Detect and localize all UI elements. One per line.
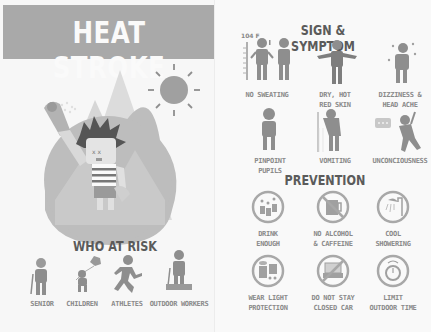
prevention-label-car-1: DO NOT STAY bbox=[303, 293, 363, 303]
prevention-label-shower-1: COOL bbox=[363, 229, 423, 239]
risk-label-senior: SENIOR bbox=[20, 299, 64, 309]
sun-icon bbox=[148, 64, 200, 116]
runner-icon bbox=[106, 255, 146, 295]
prevention-label-shower-2: SHOWERING bbox=[363, 239, 423, 249]
prevention-label-alcohol-2: & CAFFEINE bbox=[303, 239, 363, 249]
hot-skin-icon bbox=[317, 40, 357, 90]
senior-icon bbox=[27, 258, 57, 298]
symptom-label-unconsciousness: UNCONCIOUSNESS bbox=[365, 156, 431, 166]
prevention-label-drink-1: DRINK bbox=[238, 229, 298, 239]
symptom-label-hot-skin-1: DRY, HOT bbox=[305, 90, 365, 100]
child-balloon-icon bbox=[68, 254, 108, 294]
title-banner: HEAT STROKE bbox=[3, 5, 215, 59]
prevention-label-clothes-2: PROTECTION bbox=[238, 303, 298, 313]
risk-label-children: CHILDREN bbox=[60, 299, 104, 309]
symptom-label-vomiting: VOMITING bbox=[305, 156, 365, 166]
no-sweat-icon bbox=[251, 38, 297, 88]
thermometer-icon bbox=[243, 42, 251, 82]
heat-stroke-panel: HEAT STROKE bbox=[0, 0, 215, 332]
worker-cart-icon bbox=[160, 250, 200, 294]
prevention-label-clothes-1: WEAR LIGHT bbox=[238, 293, 298, 303]
shower-icon bbox=[376, 190, 410, 224]
symptoms-prevention-panel: SIGN & SYMPTOM 104 F NO SWEATING DRY, HO… bbox=[215, 0, 431, 332]
symptom-label-dizziness-1: DIZZINESS & bbox=[370, 90, 430, 100]
who-at-risk-title: WHO AT RISK bbox=[71, 238, 159, 254]
symptom-label-no-sweating: NO SWEATING bbox=[237, 90, 297, 100]
prevention-label-time-2: OUTDOOR TIME bbox=[358, 303, 428, 313]
svg-text:x x: x x bbox=[92, 148, 101, 155]
water-bottles-icon bbox=[251, 190, 285, 224]
prevention-title: PREVENTION bbox=[277, 172, 373, 188]
pupils-icon bbox=[255, 108, 285, 152]
symptom-label-dizziness-2: HEAD ACHE bbox=[370, 100, 430, 110]
prevention-label-drink-2: ENOUGH bbox=[238, 239, 298, 249]
prevention-label-car-2: CLOSED CAR bbox=[303, 303, 363, 313]
no-beer-icon bbox=[316, 190, 350, 224]
no-car-icon bbox=[316, 254, 350, 288]
light-clothes-icon bbox=[251, 254, 285, 288]
risk-label-outdoor-workers: OUTDOOR WORKERS bbox=[143, 299, 215, 309]
vomit-icon bbox=[317, 108, 353, 154]
dizzy-icon bbox=[383, 40, 423, 90]
prevention-label-alcohol-1: NO ALCOHOL bbox=[303, 229, 363, 239]
timer-icon bbox=[376, 254, 410, 288]
faint-icon bbox=[375, 110, 425, 156]
prevention-label-time-1: LIMIT bbox=[363, 293, 423, 303]
symptom-label-pupils-1: PINPOINT bbox=[240, 156, 300, 166]
